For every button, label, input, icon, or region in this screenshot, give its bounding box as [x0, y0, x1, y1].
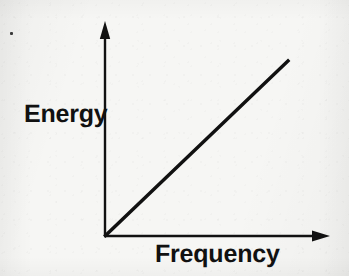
x-axis-label: Frequency	[155, 242, 280, 267]
y-axis-arrowhead-icon	[100, 21, 110, 39]
y-axis-label: Energy	[24, 102, 108, 127]
scan-speck-artifact	[10, 32, 13, 35]
x-axis-arrowhead-icon	[312, 231, 330, 242]
data-line-energy-frequency	[106, 61, 289, 236]
figure-root: Energy Frequency	[0, 0, 349, 276]
plot-canvas	[0, 0, 349, 276]
